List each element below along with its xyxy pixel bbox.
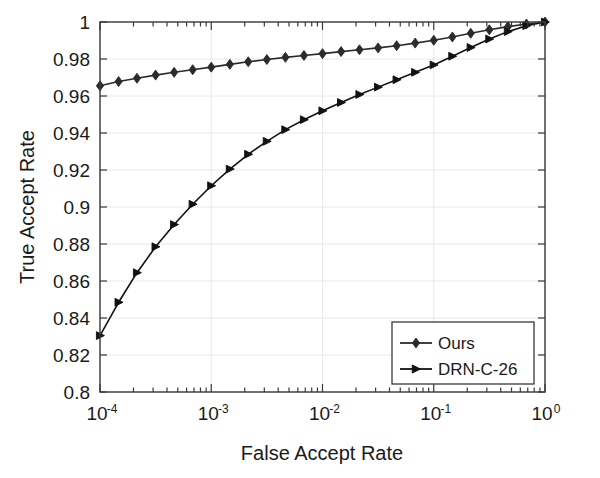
x-tick-base: 10 [420,403,441,424]
y-tick-label: 0.8 [64,382,90,403]
x-axis-title: False Accept Rate [241,442,403,464]
x-tick-exponent: -1 [440,402,451,416]
y-tick-label: 0.88 [53,234,90,255]
y-tick-label: 0.94 [53,123,90,144]
roc-curve-figure: 0.80.820.840.860.880.90.920.940.960.981 … [0,0,600,478]
x-tick-base: 10 [198,403,219,424]
x-tick-base: 10 [531,403,552,424]
y-tick-label: 0.82 [53,345,90,366]
y-tick-label: 0.9 [64,197,90,218]
y-tick-label: 0.96 [53,86,90,107]
x-tick-exponent: 0 [554,402,561,416]
x-tick-exponent: -2 [329,402,340,416]
x-tick-exponent: -4 [107,402,118,416]
x-tick-base: 10 [86,403,107,424]
legend-label: DRN-C-26 [438,360,517,379]
legend-label: Ours [438,334,475,353]
y-tick-label: 0.84 [53,308,90,329]
y-axis-title: True Accept Rate [16,130,38,284]
y-tick-label: 0.92 [53,160,90,181]
legend[interactable]: OursDRN-C-26 [392,322,534,384]
y-tick-label: 1 [79,12,90,33]
x-tick-base: 10 [309,403,330,424]
x-tick-exponent: -3 [218,402,229,416]
chart-canvas: 0.80.820.840.860.880.90.920.940.960.981 … [0,0,600,478]
y-tick-label: 0.98 [53,49,90,70]
y-tick-label: 0.86 [53,271,90,292]
